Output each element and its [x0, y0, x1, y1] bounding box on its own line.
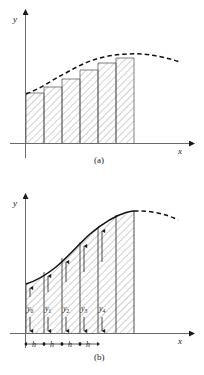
panel-b: y0 y1 y2 y3 y4 y x h h h h (b) [10, 198, 190, 362]
rectangle-bar [26, 93, 44, 143]
rectangle-bar [116, 58, 134, 143]
panel-b-caption: (b) [94, 352, 105, 362]
spacing-label-h4: h [86, 340, 90, 349]
x-axis-label-a: x [177, 146, 182, 156]
panel-a: y x (a) [10, 14, 190, 165]
function-curve-dashed-continuation [134, 211, 178, 220]
numerical-integration-figure: y x (a) [0, 0, 204, 375]
rectangle-bar [80, 70, 98, 143]
spacing-label-h3: h [68, 340, 72, 349]
panel-a-rectangles [26, 58, 134, 143]
rectangle-bar [62, 79, 80, 143]
spacing-labels: h h h h [32, 340, 90, 349]
x-axis-label-b: x [177, 336, 182, 346]
rectangle-bar [98, 63, 116, 143]
rectangle-bar [44, 87, 62, 143]
y-axis-label-a: y [12, 14, 17, 24]
spacing-label-h2: h [50, 340, 54, 349]
panel-a-caption: (a) [94, 155, 104, 165]
spacing-label-h1: h [32, 340, 36, 349]
y-axis-label-b: y [12, 198, 17, 208]
